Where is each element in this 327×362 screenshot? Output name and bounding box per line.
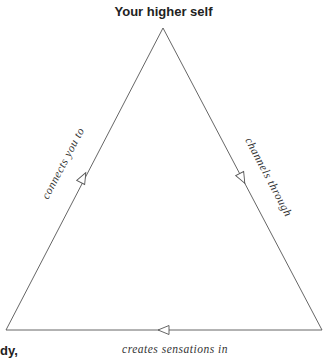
- arrow-bottom-edge-icon: [158, 326, 169, 335]
- edge-label-left: connects you to: [39, 125, 87, 201]
- edge-label-bottom: creates sensations in: [120, 343, 230, 355]
- edge-label-right: channels through: [242, 135, 294, 219]
- triangle-diagram: connects you to channels through: [0, 0, 327, 362]
- node-body-partial: dy,: [0, 343, 18, 358]
- arrow-right-edge-icon: [236, 171, 249, 185]
